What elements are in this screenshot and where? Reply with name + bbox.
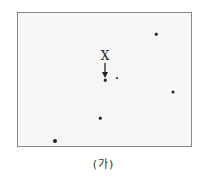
- star-dot: [155, 33, 158, 36]
- target-label: X: [101, 50, 110, 62]
- star-dot: [172, 91, 175, 94]
- star-dot: [104, 79, 107, 82]
- down-arrow-icon: [101, 63, 109, 79]
- star-dot: [99, 117, 102, 120]
- star-dot: [116, 77, 118, 79]
- figure-caption: (가): [0, 155, 207, 171]
- star-dot: [53, 139, 57, 143]
